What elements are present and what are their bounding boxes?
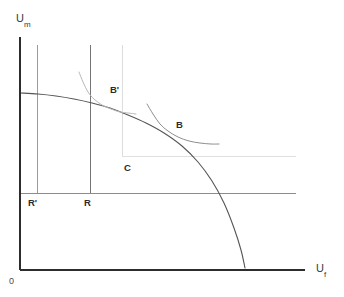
label-b: B bbox=[176, 119, 183, 130]
origin-label: 0 bbox=[9, 276, 14, 286]
x-axis-label-base: U bbox=[316, 262, 324, 274]
label-r-prime: R' bbox=[28, 197, 37, 208]
x-axis-label: Uf bbox=[316, 262, 326, 277]
chart-canvas bbox=[0, 0, 344, 297]
label-r: R bbox=[84, 197, 91, 208]
y-axis-label-base: U bbox=[16, 12, 24, 24]
y-axis-label: Um bbox=[16, 12, 31, 27]
data-series-group bbox=[20, 72, 245, 268]
curve-indifference-curve-B bbox=[147, 104, 219, 144]
reference-lines-group bbox=[20, 45, 296, 193]
curve-utility-possibility-frontier bbox=[20, 93, 245, 268]
curve-indifference-curve-B-prime bbox=[79, 72, 136, 114]
x-axis-label-subscript: f bbox=[324, 270, 326, 279]
axes-group bbox=[20, 37, 305, 270]
utility-frontier-chart: Um Uf 0 B'BCR'R bbox=[0, 0, 344, 297]
label-b-prime: B' bbox=[110, 84, 119, 95]
y-axis-label-subscript: m bbox=[24, 20, 31, 29]
label-c: C bbox=[124, 162, 131, 173]
